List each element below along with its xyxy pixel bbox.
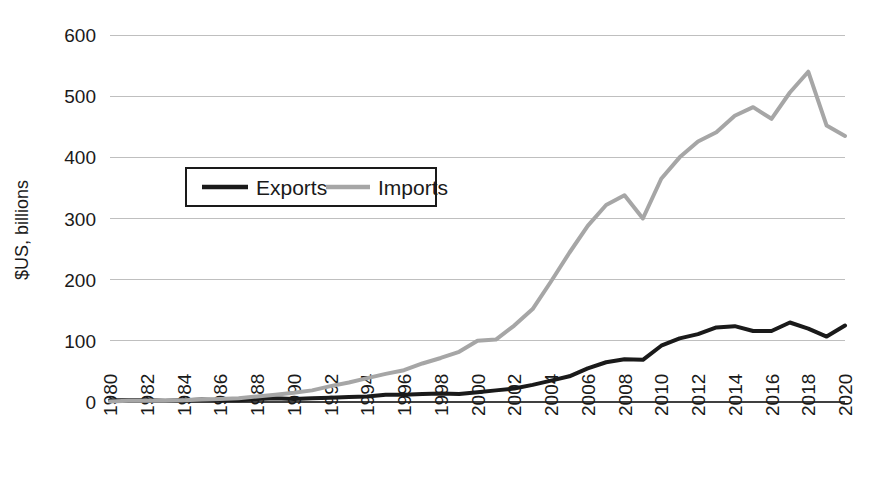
y-tick-label: 200 — [64, 270, 96, 291]
y-axis-tick-labels: 0100200300400500600 — [64, 25, 96, 413]
y-tick-label: 500 — [64, 86, 96, 107]
x-tick-label: 1992 — [321, 374, 342, 416]
x-tick-label: 1982 — [137, 374, 158, 416]
chart-container: 0100200300400500600 19801982198419861988… — [0, 0, 871, 485]
x-tick-label: 2006 — [578, 374, 599, 416]
x-tick-label: 2008 — [615, 374, 636, 416]
y-tick-label: 400 — [64, 147, 96, 168]
y-tick-label: 0 — [85, 392, 96, 413]
x-tick-label: 2016 — [762, 374, 783, 416]
x-tick-label: 2018 — [798, 374, 819, 416]
y-axis-title: $US, billions — [12, 180, 32, 280]
x-tick-label: 2010 — [651, 374, 672, 416]
x-tick-label: 2012 — [688, 374, 709, 416]
data-series-group — [110, 72, 845, 402]
legend-label-imports: Imports — [378, 176, 448, 199]
legend-label-exports: Exports — [256, 176, 327, 199]
x-tick-label: 1986 — [210, 374, 231, 416]
y-tick-label: 300 — [64, 209, 96, 230]
x-tick-label: 2014 — [725, 373, 746, 416]
x-tick-label: 2002 — [504, 374, 525, 416]
chart-legend: ExportsImports — [186, 168, 448, 206]
y-tick-label: 600 — [64, 25, 96, 46]
x-axis-tick-labels: 1980198219841986198819901992199419961998… — [100, 373, 856, 416]
x-tick-label: 1984 — [174, 373, 195, 416]
series-line-imports — [110, 72, 845, 402]
line-chart: 0100200300400500600 19801982198419861988… — [0, 0, 871, 485]
y-axis-label: $US, billions — [12, 180, 32, 280]
x-tick-label: 2020 — [835, 374, 856, 416]
gridlines-group — [110, 35, 845, 402]
x-tick-label: 1980 — [100, 374, 121, 416]
y-tick-label: 100 — [64, 331, 96, 352]
